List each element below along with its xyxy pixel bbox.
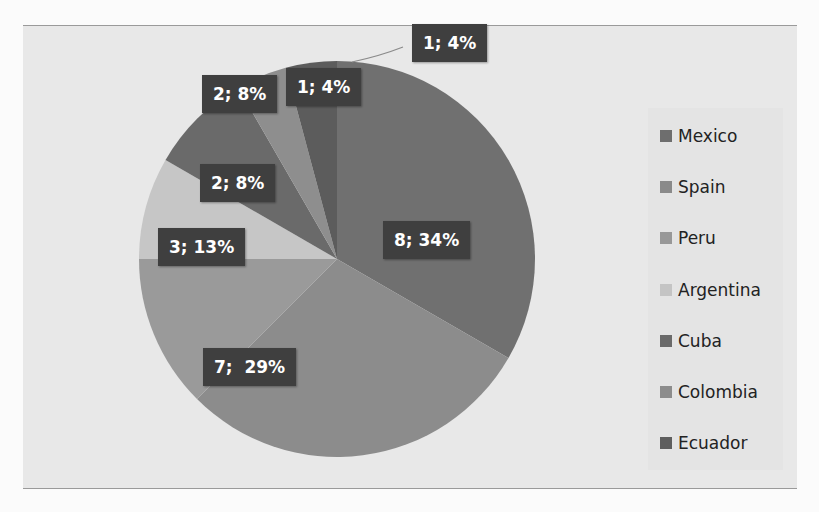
page: 8; 34% 7; 29% 3; 13% 2; 8% 2; 8% 1; 4% 1… — [0, 0, 819, 512]
data-label-spain: 7; 29% — [203, 348, 296, 386]
data-label-peru: 3; 13% — [158, 228, 245, 266]
data-label-ecuador: 1; 4% — [412, 24, 487, 62]
legend-label: Cuba — [678, 331, 722, 351]
legend-swatch-icon — [660, 130, 672, 142]
legend-label: Colombia — [678, 382, 758, 402]
legend-swatch-icon — [660, 386, 672, 398]
legend-item-mexico: Mexico — [660, 124, 737, 148]
legend-item-ecuador: Ecuador — [660, 431, 747, 455]
legend-swatch-icon — [660, 335, 672, 347]
data-label-argentina: 2; 8% — [200, 164, 275, 202]
data-label-colombia: 1; 4% — [286, 68, 361, 106]
legend-label: Peru — [678, 228, 716, 248]
legend-item-spain: Spain — [660, 175, 726, 199]
legend-item-argentina: Argentina — [660, 278, 761, 302]
legend-item-cuba: Cuba — [660, 329, 722, 353]
legend-label: Spain — [678, 177, 726, 197]
leader-line — [352, 47, 403, 62]
data-label-cuba: 2; 8% — [202, 75, 277, 113]
legend-swatch-icon — [660, 232, 672, 244]
legend-swatch-icon — [660, 181, 672, 193]
legend-label: Argentina — [678, 280, 761, 300]
legend-swatch-icon — [660, 284, 672, 296]
data-label-mexico: 8; 34% — [383, 221, 470, 259]
legend-swatch-icon — [660, 437, 672, 449]
legend-item-colombia: Colombia — [660, 380, 758, 404]
legend-label: Mexico — [678, 126, 737, 146]
legend-label: Ecuador — [678, 433, 747, 453]
legend-item-peru: Peru — [660, 226, 716, 250]
